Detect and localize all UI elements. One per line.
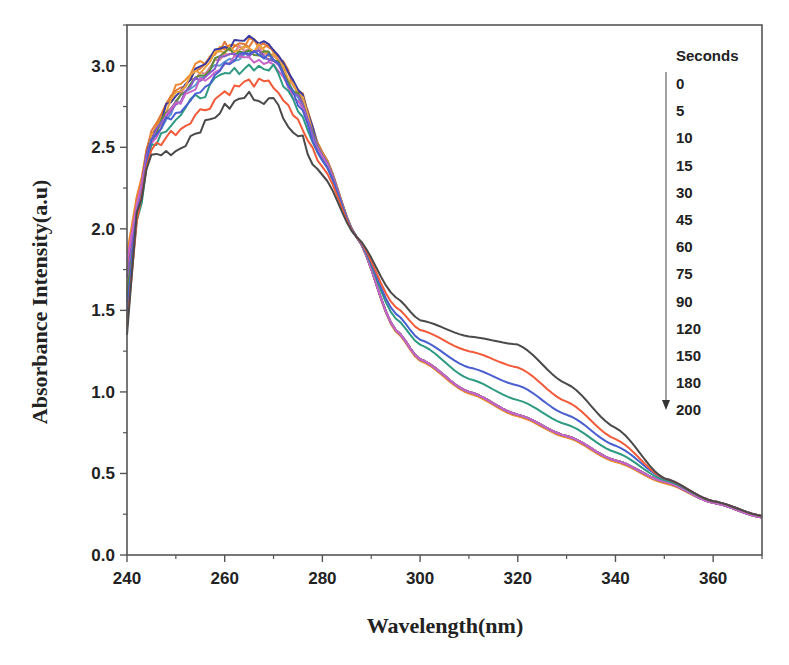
y-axis-title: Absorbance Intensity(a.u) [27,180,52,424]
x-tick-label: 360 [699,569,727,588]
series-line-120s [127,46,762,518]
series-line-0s [127,92,762,516]
legend-item: 200 [676,401,701,418]
x-tick-label: 320 [504,569,532,588]
legend: Seconds 0510153045607590120150180200 [662,47,739,418]
plot-frame [127,25,762,555]
legend-item: 15 [676,157,693,174]
series-line-45s [127,51,762,518]
legend-item: 45 [676,211,693,228]
y-tick-label: 2.0 [91,220,115,239]
x-axis: 240260280300320340360 [113,555,762,588]
y-tick-label: 1.5 [91,301,115,320]
y-tick-label: 0.0 [91,546,115,565]
series-line-5s [127,79,762,516]
series-line-10s [127,51,762,516]
series-line-180s [127,51,762,518]
series-lines [127,36,762,518]
legend-item: 60 [676,238,693,255]
x-axis-title: Wavelength(nm) [367,613,523,638]
series-line-30s [127,56,762,518]
series-line-15s [127,65,762,516]
legend-item: 120 [676,320,701,337]
legend-item: 90 [676,293,693,310]
legend-item: 75 [676,265,693,282]
y-axis: 0.00.51.01.52.02.53.0 [91,25,127,565]
legend-item: 10 [676,129,693,146]
x-tick-label: 280 [308,569,336,588]
absorbance-chart: 240260280300320340360 0.00.51.01.52.02.5… [0,0,789,665]
legend-item: 180 [676,374,701,391]
series-line-75s [127,44,762,517]
x-tick-label: 340 [601,569,629,588]
arrow-down-icon [662,400,670,410]
legend-item: 5 [676,102,684,119]
legend-item: 0 [676,75,684,92]
series-line-60s [127,48,762,517]
x-tick-label: 300 [406,569,434,588]
y-tick-label: 2.5 [91,138,115,157]
y-tick-label: 1.0 [91,383,115,402]
x-tick-label: 260 [211,569,239,588]
legend-title: Seconds [676,47,739,64]
y-tick-label: 3.0 [91,57,115,76]
y-tick-label: 0.5 [91,464,115,483]
legend-item: 30 [676,184,693,201]
legend-item: 150 [676,347,701,364]
x-tick-label: 240 [113,569,141,588]
